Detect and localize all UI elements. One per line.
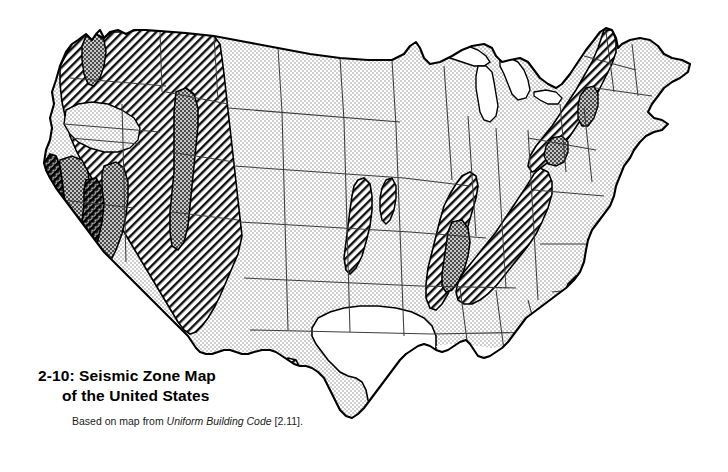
figure-title-line2: of the United States [38, 386, 358, 406]
zone0-florida [536, 330, 588, 412]
figure-caption-block: 2-10: Seismic Zone Map of the United Sta… [38, 366, 358, 428]
source-prefix: Based on map from [72, 415, 164, 427]
source-reference: [2.11]. [275, 415, 303, 427]
source-publication: Uniform Building Code [167, 415, 272, 427]
figure-title: 2-10: Seismic Zone Map of the United Sta… [38, 366, 358, 406]
figure-title-line1: 2-10: Seismic Zone Map [38, 367, 216, 384]
figure-source-note: Based on map from Uniform Building Code … [72, 415, 358, 428]
seismic-zone-figure: 2-10: Seismic Zone Map of the United Sta… [0, 0, 728, 472]
